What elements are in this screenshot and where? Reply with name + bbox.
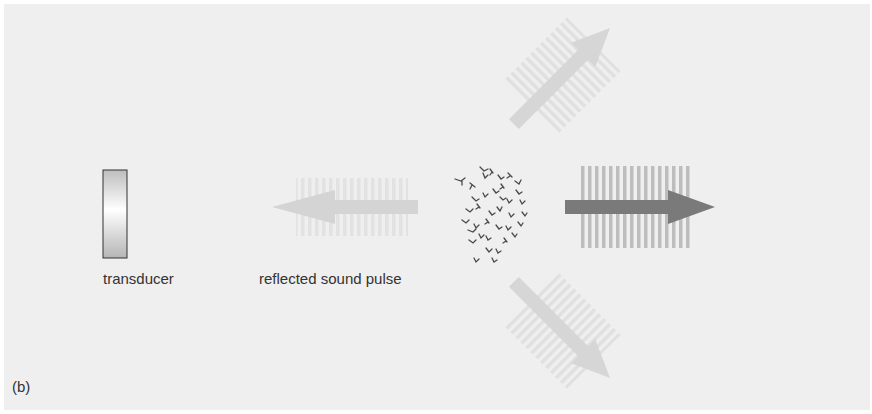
scattered-pulse-down-arrow-icon	[487, 255, 637, 405]
reflected-pulse-arrow-icon	[272, 178, 418, 236]
transducer-label: transducer	[103, 270, 174, 287]
scatterer-particles-icon	[455, 167, 527, 262]
reflected-pulse-label: reflected sound pulse	[259, 270, 402, 287]
diagram-canvas	[0, 0, 872, 414]
scattered-pulse-up-arrow-icon	[487, 1, 637, 151]
transmitted-pulse-arrow-icon	[565, 166, 715, 248]
transducer-icon	[103, 170, 127, 258]
panel-label: (b)	[12, 378, 30, 395]
